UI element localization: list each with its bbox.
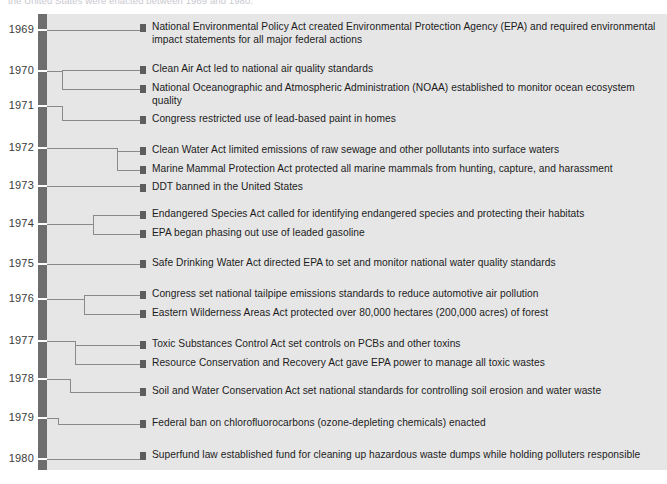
event-text: Congress set national tailpipe emissions… bbox=[152, 288, 657, 301]
event-text: Safe Drinking Water Act directed EPA to … bbox=[152, 257, 657, 270]
connector-line bbox=[93, 215, 94, 234]
connector-line bbox=[75, 345, 140, 346]
event-bullet bbox=[140, 230, 146, 238]
connector-line bbox=[84, 295, 85, 314]
event-bullet bbox=[140, 147, 146, 155]
event-text: Federal ban on chlorofluorocarbons (ozon… bbox=[152, 417, 657, 430]
event-text: EPA began phasing out use of leaded gaso… bbox=[152, 227, 657, 240]
event-bullet bbox=[140, 211, 146, 219]
event-bullet bbox=[140, 66, 146, 74]
connector-line bbox=[47, 186, 140, 187]
connector-line bbox=[70, 379, 71, 392]
year-tick bbox=[38, 223, 47, 225]
connector-line bbox=[47, 459, 140, 460]
connector-line bbox=[62, 120, 140, 121]
connector-line bbox=[47, 264, 140, 265]
event-text: Clean Air Act led to national air qualit… bbox=[152, 63, 657, 76]
year-label-1970: 1970 bbox=[0, 64, 34, 76]
year-tick bbox=[38, 105, 47, 107]
connector-line bbox=[93, 234, 140, 235]
event-bullet bbox=[140, 420, 146, 428]
year-label-1978: 1978 bbox=[0, 372, 34, 384]
event-bullet bbox=[140, 341, 146, 349]
event-text: Toxic Substances Control Act set control… bbox=[152, 338, 657, 351]
year-label-1977: 1977 bbox=[0, 334, 34, 346]
connector-line bbox=[117, 170, 140, 171]
year-label-1980: 1980 bbox=[0, 452, 34, 464]
event-text: National Oceanographic and Atmospheric A… bbox=[152, 82, 657, 107]
year-label-1974: 1974 bbox=[0, 217, 34, 229]
year-tick bbox=[38, 185, 47, 187]
year-label-1971: 1971 bbox=[0, 99, 34, 111]
year-tick bbox=[38, 417, 47, 419]
year-tick bbox=[38, 298, 47, 300]
connector-line bbox=[62, 70, 140, 71]
event-bullet bbox=[140, 452, 146, 460]
connector-line bbox=[62, 70, 63, 89]
year-label-1975: 1975 bbox=[0, 257, 34, 269]
connector-line bbox=[58, 424, 140, 425]
timeline-spine bbox=[38, 14, 47, 470]
connector-line bbox=[84, 295, 140, 296]
event-bullet bbox=[140, 116, 146, 124]
year-label-1976: 1976 bbox=[0, 292, 34, 304]
connector-line bbox=[62, 89, 140, 90]
event-bullet bbox=[140, 24, 146, 32]
year-label-1969: 1969 bbox=[0, 23, 34, 35]
connector-line bbox=[47, 106, 62, 107]
event-bullet bbox=[140, 166, 146, 174]
connector-line bbox=[117, 151, 140, 152]
year-tick bbox=[38, 458, 47, 460]
year-tick bbox=[38, 147, 47, 149]
connector-line bbox=[47, 224, 93, 225]
connector-line bbox=[47, 418, 58, 419]
year-tick bbox=[38, 340, 47, 342]
event-bullet bbox=[140, 310, 146, 318]
year-tick bbox=[38, 29, 47, 31]
event-bullet bbox=[140, 360, 146, 368]
event-text: Eastern Wilderness Areas Act protected o… bbox=[152, 307, 657, 320]
year-label-1973: 1973 bbox=[0, 179, 34, 191]
event-text: Resource Conservation and Recovery Act g… bbox=[152, 357, 657, 370]
event-bullet bbox=[140, 184, 146, 192]
event-text: Marine Mammal Protection Act protected a… bbox=[152, 163, 657, 176]
year-tick bbox=[38, 263, 47, 265]
event-text: Congress restricted use of lead-based pa… bbox=[152, 113, 657, 126]
connector-line bbox=[84, 314, 140, 315]
event-bullet bbox=[140, 260, 146, 268]
event-text: Soil and Water Conservation Act set nati… bbox=[152, 385, 657, 398]
event-bullet bbox=[140, 388, 146, 396]
year-tick bbox=[38, 378, 47, 380]
figure-caption: the United States were enacted between 1… bbox=[8, 0, 253, 6]
event-text: National Environmental Policy Act create… bbox=[152, 21, 657, 46]
event-bullet bbox=[140, 85, 146, 93]
event-text: DDT banned in the United States bbox=[152, 181, 657, 194]
connector-line bbox=[47, 71, 62, 72]
year-label-1979: 1979 bbox=[0, 411, 34, 423]
event-bullet bbox=[140, 291, 146, 299]
connector-line bbox=[93, 215, 140, 216]
year-label-1972: 1972 bbox=[0, 141, 34, 153]
connector-line bbox=[47, 148, 117, 149]
connector-line bbox=[62, 106, 63, 120]
event-text: Superfund law established fund for clean… bbox=[152, 449, 657, 462]
connector-line bbox=[47, 299, 84, 300]
connector-line bbox=[47, 341, 75, 342]
connector-line bbox=[47, 30, 140, 31]
event-text: Clean Water Act limited emissions of raw… bbox=[152, 144, 657, 157]
connector-line bbox=[70, 392, 140, 393]
year-tick bbox=[38, 70, 47, 72]
connector-line bbox=[47, 379, 70, 380]
event-text: Endangered Species Act called for identi… bbox=[152, 208, 657, 221]
connector-line bbox=[75, 364, 140, 365]
